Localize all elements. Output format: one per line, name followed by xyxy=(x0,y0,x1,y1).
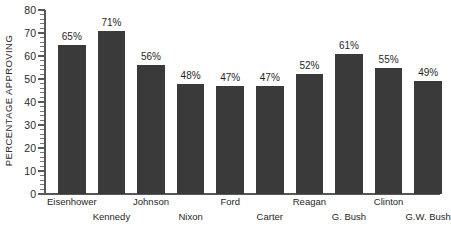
y-axis-tick-label: 50 xyxy=(24,73,36,85)
bar-value-label: 65% xyxy=(62,31,82,42)
y-axis-tick-label: 20 xyxy=(24,142,36,154)
y-axis-tick-label: 0 xyxy=(30,188,36,200)
bar-value-label: 49% xyxy=(418,67,438,78)
bar[interactable] xyxy=(216,86,244,194)
bar-group[interactable]: 61% xyxy=(335,10,363,194)
bar-group[interactable]: 49% xyxy=(414,10,442,194)
bar-value-label: 61% xyxy=(339,40,359,51)
x-axis-category-label: Kennedy xyxy=(93,211,131,222)
bar[interactable] xyxy=(296,74,324,194)
plot-area: 01020304050607080 65%71%56%48%47%47%52%6… xyxy=(44,10,440,194)
bar-value-label: 48% xyxy=(181,70,201,81)
bar-group[interactable]: 55% xyxy=(375,10,403,194)
x-axis-category-label: Nixon xyxy=(178,211,202,222)
bar-group[interactable]: 47% xyxy=(256,10,284,194)
y-axis-tick-label: 40 xyxy=(24,96,36,108)
bar[interactable] xyxy=(414,81,442,194)
y-axis-tick-label: 60 xyxy=(24,50,36,62)
y-axis-tick-label: 10 xyxy=(24,165,36,177)
bar[interactable] xyxy=(137,65,165,194)
x-axis-category-label: Eisenhower xyxy=(47,196,97,207)
y-axis-tick-label: 70 xyxy=(24,27,36,39)
bar[interactable] xyxy=(177,84,205,194)
bar-value-label: 55% xyxy=(379,54,399,65)
y-axis-title-text: PERCENTAGE APPROVING xyxy=(4,34,15,165)
bar[interactable] xyxy=(375,68,403,195)
x-axis-category-label: Ford xyxy=(220,196,240,207)
x-axis-category-label: Clinton xyxy=(374,196,404,207)
bar-group[interactable]: 47% xyxy=(216,10,244,194)
bar-group[interactable]: 65% xyxy=(58,10,86,194)
bar-value-label: 47% xyxy=(260,72,280,83)
y-axis-tick-label: 80 xyxy=(24,4,36,16)
bar-group[interactable]: 48% xyxy=(177,10,205,194)
bar[interactable] xyxy=(335,54,363,194)
x-axis-category-label: Reagan xyxy=(293,196,326,207)
x-axis-category-labels: EisenhowerKennedyJohnsonNixonFordCarterR… xyxy=(44,196,440,232)
bar-value-label: 71% xyxy=(101,17,121,28)
y-axis-tick-label: 30 xyxy=(24,119,36,131)
bar-group[interactable]: 71% xyxy=(98,10,126,194)
bar-value-label: 56% xyxy=(141,51,161,62)
bar-value-label: 47% xyxy=(220,72,240,83)
bar-group[interactable]: 52% xyxy=(296,10,324,194)
bar-value-label: 52% xyxy=(299,60,319,71)
bars-layer: 65%71%56%48%47%47%52%61%55%49% xyxy=(44,10,440,194)
bar-group[interactable]: 56% xyxy=(137,10,165,194)
bar[interactable] xyxy=(98,31,126,194)
x-axis-category-label: G.W. Bush xyxy=(405,211,450,222)
x-axis-category-label: Carter xyxy=(257,211,283,222)
bar[interactable] xyxy=(58,45,86,195)
y-axis-title: PERCENTAGE APPROVING xyxy=(0,0,18,200)
x-axis-category-label: Johnson xyxy=(133,196,169,207)
bar[interactable] xyxy=(256,86,284,194)
x-axis-category-label: G. Bush xyxy=(332,211,366,222)
